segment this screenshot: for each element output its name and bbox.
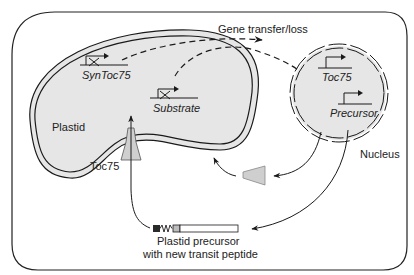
- plastid-precursor-protein: [153, 225, 238, 232]
- plastid-label: Plastid: [52, 121, 85, 133]
- precursor-label-line2: with new transit peptide: [142, 248, 258, 260]
- gene-transfer-label: Gene transfer/loss: [218, 23, 308, 35]
- toc75-insertion-arrow: [214, 158, 236, 176]
- toc75-translation-arrow: [274, 132, 321, 176]
- precursor-label-line1: Plastid precursor: [157, 235, 240, 247]
- gene-toc75-label: Toc75: [322, 71, 352, 83]
- toc75-protein: [243, 166, 265, 185]
- precursor-translation-arrow: [252, 130, 348, 229]
- diagram-canvas: SynToc75 Substrate Plastid Gene transfer…: [0, 0, 414, 275]
- linker-zigzag: [160, 225, 172, 232]
- mature-protein: [180, 225, 238, 232]
- nucleus: [290, 44, 388, 142]
- gene-syntoc75-label: SynToc75: [82, 69, 131, 81]
- toc75-channel-label: Toc75: [90, 160, 119, 172]
- gene-substrate-label: Substrate: [153, 102, 200, 114]
- transit-peptide-light: [173, 225, 180, 232]
- gene-precursor-label: Precursor: [330, 107, 379, 119]
- transit-peptide-dark: [153, 225, 160, 232]
- nucleus-label: Nucleus: [360, 148, 400, 160]
